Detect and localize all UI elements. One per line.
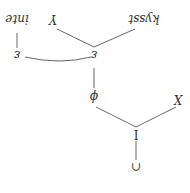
node-inte: inte — [5, 12, 29, 26]
node-root: ∩ — [131, 160, 141, 174]
node-kysst: kysst — [128, 12, 159, 26]
edge-eps-kysst — [94, 29, 135, 47]
node-eps-main: ε — [91, 48, 97, 62]
tree-svg: ∩ I X ϕ ε kysst Y ε inte — [0, 0, 190, 193]
syntax-tree-diagram: ∩ I X ϕ ε kysst Y ε inte — [0, 0, 190, 193]
edge-i-phi — [96, 107, 136, 127]
edge-eps-y — [57, 29, 94, 47]
node-i: I — [133, 127, 138, 141]
node-x: X — [173, 92, 183, 106]
node-phi: ϕ — [90, 90, 98, 104]
arc-eps-eps — [25, 57, 91, 61]
edge-i-x — [136, 107, 176, 127]
node-y: Y — [48, 12, 57, 26]
node-eps-arc: ε — [14, 48, 20, 62]
